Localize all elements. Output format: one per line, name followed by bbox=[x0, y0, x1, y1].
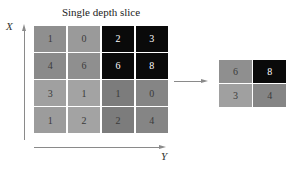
input-cell: 8 bbox=[136, 53, 168, 79]
input-cell: 2 bbox=[102, 26, 134, 52]
y-axis-label: Y bbox=[161, 150, 167, 162]
transform-arrow-line bbox=[174, 81, 202, 82]
output-cell: 6 bbox=[219, 60, 252, 83]
input-cell: 4 bbox=[136, 107, 168, 133]
diagram-title: Single depth slice bbox=[34, 6, 168, 18]
output-cell: 8 bbox=[253, 60, 286, 83]
x-axis-line bbox=[24, 30, 25, 140]
input-cell: 1 bbox=[34, 107, 66, 133]
input-cell: 3 bbox=[34, 80, 66, 106]
y-axis-line bbox=[34, 147, 160, 148]
transform-arrow-icon bbox=[201, 79, 208, 83]
input-cell: 2 bbox=[102, 107, 134, 133]
input-cell: 1 bbox=[34, 26, 66, 52]
x-axis-arrow-icon bbox=[22, 24, 26, 31]
output-cell: 3 bbox=[219, 84, 252, 107]
x-axis-label: X bbox=[6, 20, 13, 32]
input-cell: 0 bbox=[68, 26, 100, 52]
input-cell: 1 bbox=[68, 80, 100, 106]
input-cell: 6 bbox=[102, 53, 134, 79]
input-cell: 0 bbox=[136, 80, 168, 106]
input-cell: 6 bbox=[68, 53, 100, 79]
input-cell: 2 bbox=[68, 107, 100, 133]
output-cell: 4 bbox=[253, 84, 286, 107]
input-cell: 1 bbox=[102, 80, 134, 106]
input-grid: 1 0 2 3 4 6 6 8 3 1 1 0 1 2 2 4 bbox=[34, 26, 168, 133]
input-cell: 3 bbox=[136, 26, 168, 52]
y-axis-arrow-icon bbox=[159, 145, 166, 149]
output-grid: 6 8 3 4 bbox=[219, 60, 286, 107]
input-cell: 4 bbox=[34, 53, 66, 79]
